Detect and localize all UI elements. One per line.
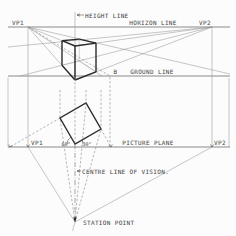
vp2-top-label: VP2 bbox=[199, 19, 211, 26]
cube-top-front-right bbox=[75, 43, 96, 46]
square-edge-extension-right bbox=[101, 129, 111, 147]
sight-lines bbox=[60, 103, 101, 222]
left-extension-arrow-icon bbox=[9, 145, 13, 147]
angle-30-label: 30° bbox=[82, 141, 91, 147]
angle-60-label: 60° bbox=[61, 141, 70, 147]
vp2-bottom-label: VP2 bbox=[214, 139, 226, 146]
station-point-label: STATION POINT bbox=[83, 219, 135, 226]
height-line-label: HEIGHT LINE bbox=[85, 12, 129, 19]
sp-to-vp2 bbox=[75, 147, 212, 222]
cube-bottom-front-left bbox=[62, 65, 75, 80]
plan-square bbox=[60, 103, 101, 144]
sight-line-left-corner bbox=[60, 118, 75, 222]
right-extension-arrow-icon bbox=[109, 144, 113, 147]
cube-hidden-edge bbox=[62, 61, 79, 65]
vp1-ray-top-right bbox=[28, 27, 230, 74]
cube-top-back-right bbox=[79, 39, 96, 43]
vp2-rays bbox=[8, 27, 212, 80]
leaders bbox=[9, 14, 214, 222]
vp1-to-b-dashed bbox=[28, 27, 110, 76]
cube-top-front-left bbox=[62, 41, 75, 46]
ground-line-label: GROUND LINE bbox=[130, 68, 174, 75]
vp1-top-label: VP1 bbox=[12, 19, 24, 26]
point-b-label: B bbox=[114, 68, 118, 75]
vp1-bottom-label: VP1 bbox=[31, 139, 43, 146]
sight-line-back-corner bbox=[75, 103, 86, 222]
picture-plane-label: PICTURE PLANE bbox=[122, 139, 174, 146]
perspective-construction-diagram: HEIGHT LINE HORIZON LINE VP1 VP2 B GROUN… bbox=[0, 0, 236, 236]
diagram-svg: HEIGHT LINE HORIZON LINE VP1 VP2 B GROUN… bbox=[0, 0, 236, 236]
sp-to-vp1 bbox=[28, 147, 75, 222]
centre-line-label: CENTRE LINE OF VISION. bbox=[82, 168, 169, 175]
projection-lines bbox=[10, 77, 111, 147]
vp2-ray-top-left bbox=[8, 27, 212, 47]
perspective-cube bbox=[62, 39, 96, 80]
sp-tail bbox=[73, 222, 76, 231]
horizon-line-label: HORIZON LINE bbox=[129, 19, 177, 26]
